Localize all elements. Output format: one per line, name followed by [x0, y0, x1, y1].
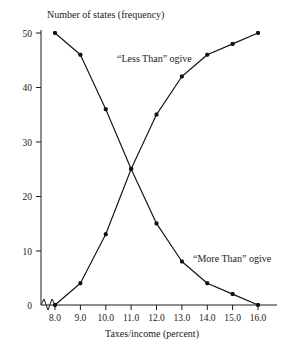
data-point — [256, 303, 260, 307]
y-tick-label-0: 0 — [27, 301, 32, 311]
chart-canvas: 50 40 30 20 10 0 8.0 9.0 10.0 11.0 12.0 … — [0, 0, 287, 342]
data-point — [155, 221, 159, 225]
data-point — [78, 53, 82, 57]
data-point — [256, 31, 260, 35]
y-tick-label-30: 30 — [23, 138, 33, 148]
x-tick-label-12: 12.0 — [148, 313, 165, 323]
more-than-ogive-label: “More Than” ogive — [193, 253, 272, 264]
data-point — [104, 232, 108, 236]
y-tick-marks — [36, 33, 41, 251]
data-point — [104, 107, 108, 111]
data-point — [53, 31, 57, 35]
y-axis-title: Number of states (frequency) — [47, 9, 164, 21]
data-point — [53, 303, 57, 307]
x-tick-label-15: 15.0 — [224, 313, 241, 323]
x-tick-label-10: 10.0 — [97, 313, 114, 323]
x-axis-title: Taxes/income (percent) — [105, 328, 199, 340]
series-layer — [53, 31, 260, 307]
data-point — [155, 113, 159, 117]
y-tick-label-20: 20 — [23, 192, 33, 202]
ogive-chart-figure: 50 40 30 20 10 0 8.0 9.0 10.0 11.0 12.0 … — [0, 0, 287, 342]
data-point — [129, 167, 133, 171]
series-line-more-than — [55, 33, 258, 305]
x-tick-label-9: 9.0 — [74, 313, 86, 323]
x-tick-label-11: 11.0 — [123, 313, 140, 323]
data-point — [231, 292, 235, 296]
data-point — [205, 281, 209, 285]
less-than-ogive-label: “Less Than” ogive — [117, 53, 192, 64]
data-point — [180, 259, 184, 263]
data-point — [180, 75, 184, 79]
data-point — [78, 281, 82, 285]
y-tick-label-10: 10 — [23, 247, 33, 257]
data-point — [231, 42, 235, 46]
y-tick-label-50: 50 — [23, 29, 33, 39]
x-tick-marks — [55, 305, 258, 310]
x-tick-label-16: 16.0 — [250, 313, 267, 323]
data-point — [205, 53, 209, 57]
x-tick-label-14: 14.0 — [199, 313, 216, 323]
x-tick-label-8: 8.0 — [49, 313, 61, 323]
y-tick-label-40: 40 — [23, 83, 33, 93]
x-tick-label-13: 13.0 — [174, 313, 191, 323]
series-line-less-than — [55, 33, 258, 305]
